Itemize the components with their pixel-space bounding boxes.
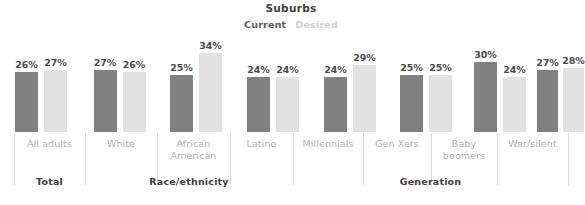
bar-desired[interactable]: [503, 77, 526, 132]
category-label-row: All adults White African American Latino…: [0, 138, 582, 168]
bar-pair-current-millennials: 24%: [324, 36, 347, 132]
category-label-millennials: Millennials: [293, 138, 363, 150]
bar-pair-desired-war-silent: 28%: [563, 36, 584, 132]
bar-value-label: 24%: [503, 65, 526, 75]
bar-group-war-silent: 27% 28%: [537, 36, 582, 132]
bar-value-label: 34%: [199, 41, 222, 51]
bar-value-label: 24%: [247, 65, 270, 75]
bar-pair-desired-all-adults: 27%: [44, 36, 67, 132]
bar-pair-current-all-adults: 26%: [15, 36, 38, 132]
bar-value-label: 25%: [400, 63, 423, 73]
bar-pair-current-latino: 24%: [247, 36, 270, 132]
bar-desired[interactable]: [563, 68, 584, 132]
category-label-african-american: African American: [157, 138, 230, 161]
bar-value-label: 25%: [429, 63, 452, 73]
category-label-line: boomers: [431, 150, 497, 162]
group-label-total: Total: [14, 176, 85, 187]
bar-value-label: 26%: [15, 60, 38, 70]
bar-value-label: 27%: [94, 58, 117, 68]
category-label-line: African: [157, 138, 230, 150]
plot-area: 26% 27% 27% 26%: [0, 36, 582, 132]
bar-group-african-american: 25% 34%: [157, 36, 235, 132]
group-label-generation: Generation: [293, 176, 568, 187]
category-label-baby-boomers: Baby boomers: [431, 138, 497, 161]
bar-group-millennials: 24% 29%: [311, 36, 389, 132]
bar-current[interactable]: [170, 75, 193, 132]
bar-current[interactable]: [324, 77, 347, 132]
category-label-line: Latino: [230, 138, 293, 150]
bar-value-label: 29%: [353, 53, 376, 63]
bar-desired[interactable]: [429, 75, 452, 132]
bar-group-all-adults: 26% 27%: [0, 36, 82, 132]
bar-group-white: 27% 26%: [82, 36, 157, 132]
bar-pair-current-baby-boomers: 30%: [474, 36, 497, 132]
chart-title: Suburbs: [0, 2, 582, 14]
bar-value-label: 27%: [44, 58, 67, 68]
bar-current[interactable]: [400, 75, 423, 132]
bar-value-label: 25%: [170, 63, 193, 73]
bar-value-label: 28%: [562, 56, 585, 66]
bar-pair-desired-gen-xers: 25%: [429, 36, 452, 132]
category-label-white: White: [85, 138, 157, 150]
group-label-row: Total Race/ethnicity Generation: [0, 176, 582, 192]
bar-desired[interactable]: [44, 70, 67, 132]
bar-pair-desired-millennials: 29%: [353, 36, 376, 132]
bar-pair-current-gen-xers: 25%: [400, 36, 423, 132]
chart-legend: Current Desired: [0, 19, 582, 30]
category-label-latino: Latino: [230, 138, 293, 150]
bar-pair-desired-latino: 24%: [276, 36, 299, 132]
bar-pair-current-african-american: 25%: [170, 36, 193, 132]
bar-value-label: 24%: [324, 65, 347, 75]
bar-pair-desired-african-american: 34%: [199, 36, 222, 132]
category-label-line: Baby: [431, 138, 497, 150]
bar-value-label: 27%: [536, 58, 559, 68]
bar-desired[interactable]: [353, 65, 376, 132]
group-label-race-ethnicity: Race/ethnicity: [85, 176, 293, 187]
bar-value-label: 30%: [474, 50, 497, 60]
bar-current[interactable]: [94, 70, 117, 132]
bar-current[interactable]: [537, 70, 558, 132]
bar-group-baby-boomers: 30% 24%: [463, 36, 537, 132]
category-label-line: War/silent: [497, 138, 568, 150]
bar-desired[interactable]: [276, 77, 299, 132]
category-label-war-silent: War/silent: [497, 138, 568, 150]
bar-pair-current-war-silent: 27%: [537, 36, 558, 132]
category-label-line: American: [157, 150, 230, 162]
bar-desired[interactable]: [123, 72, 146, 132]
bar-current[interactable]: [247, 77, 270, 132]
bar-desired[interactable]: [199, 53, 222, 132]
category-label-line: Gen Xers: [363, 138, 431, 150]
bar-pair-desired-baby-boomers: 24%: [503, 36, 526, 132]
legend-item-desired: Desired: [295, 19, 338, 30]
bar-value-label: 24%: [276, 65, 299, 75]
category-label-gen-xers: Gen Xers: [363, 138, 431, 150]
legend-item-current: Current: [244, 19, 286, 30]
category-label-line: White: [85, 138, 157, 150]
category-label-all-adults: All adults: [14, 138, 85, 150]
bar-value-label: 26%: [123, 60, 146, 70]
bar-group-gen-xers: 25% 25%: [389, 36, 463, 132]
bar-current[interactable]: [474, 62, 497, 132]
bar-group-latino: 24% 24%: [235, 36, 311, 132]
category-label-line: All adults: [14, 138, 85, 150]
bar-pair-desired-white: 26%: [123, 36, 146, 132]
bar-pair-current-white: 27%: [94, 36, 117, 132]
bar-current[interactable]: [15, 72, 38, 132]
category-label-line: Millennials: [293, 138, 363, 150]
